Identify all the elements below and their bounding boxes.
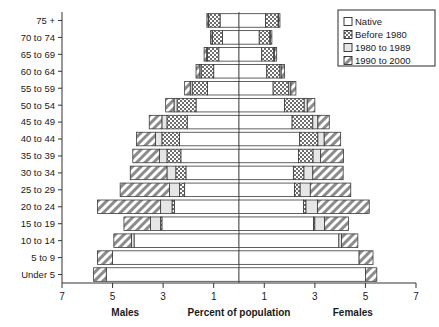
bar-segment-female-14-0 bbox=[239, 31, 259, 45]
y-tick-label-0: Under 5 bbox=[21, 269, 55, 280]
y-tick-label-15: 75 + bbox=[36, 15, 55, 26]
bar-segment-female-10-2 bbox=[304, 98, 307, 112]
y-tick-label-8: 40 to 44 bbox=[21, 133, 55, 144]
bar-segment-male-10-2 bbox=[174, 98, 177, 112]
bar-segment-female-1-3 bbox=[359, 251, 373, 265]
bar-segment-male-14-3 bbox=[210, 31, 212, 45]
y-tick-label-9: 45 to 49 bbox=[21, 116, 55, 127]
bar-segment-male-8-0 bbox=[180, 132, 239, 146]
bar-segment-female-6-2 bbox=[304, 166, 313, 180]
bar-segment-female-5-0 bbox=[239, 183, 295, 197]
y-tick-label-3: 15 to 19 bbox=[21, 218, 55, 229]
bar-segment-male-4-0 bbox=[175, 200, 239, 214]
bar-segment-female-10-0 bbox=[239, 98, 285, 112]
bar-segment-female-1-0 bbox=[239, 251, 359, 265]
bar-segment-male-0-3 bbox=[94, 268, 107, 282]
bars-group bbox=[94, 14, 377, 282]
bar-segment-male-13-1 bbox=[207, 48, 218, 62]
bar-segment-female-3-3 bbox=[324, 217, 348, 231]
bar-segment-male-13-3 bbox=[204, 48, 207, 62]
bar-segment-female-5-3 bbox=[310, 183, 350, 197]
x-tick-label-5: 3 bbox=[312, 291, 318, 302]
y-tick-label-1: 5 to 9 bbox=[31, 252, 55, 263]
bar-segment-female-3-0 bbox=[239, 217, 314, 231]
bar-segment-male-5-2 bbox=[169, 183, 179, 197]
x-tick-label-3: 1 bbox=[211, 291, 217, 302]
bar-segment-male-5-0 bbox=[185, 183, 239, 197]
bar-segment-female-9-0 bbox=[239, 115, 292, 129]
bar-segment-male-10-1 bbox=[177, 98, 196, 112]
bar-segment-female-8-1 bbox=[300, 132, 318, 146]
bar-segment-male-4-2 bbox=[161, 200, 172, 214]
bar-segment-male-10-3 bbox=[166, 98, 174, 112]
bar-segment-male-11-0 bbox=[207, 81, 239, 95]
y-tick-label-2: 10 to 14 bbox=[21, 235, 55, 246]
bar-segment-female-13-3 bbox=[274, 48, 276, 62]
bar-segment-male-9-3 bbox=[149, 115, 162, 129]
bar-segment-male-4-3 bbox=[97, 200, 160, 214]
bar-segment-female-6-3 bbox=[313, 166, 343, 180]
bar-segment-female-14-3 bbox=[270, 31, 272, 45]
y-tick-label-4: 20 to 24 bbox=[21, 201, 55, 212]
bar-segment-female-4-0 bbox=[239, 200, 303, 214]
bar-segment-female-7-0 bbox=[239, 149, 298, 163]
bar-segment-male-3-3 bbox=[124, 217, 151, 231]
x-tick-label-1: 5 bbox=[110, 291, 116, 302]
bar-segment-female-11-1 bbox=[273, 81, 289, 95]
bar-segment-male-14-1 bbox=[212, 31, 222, 45]
bar-segment-male-6-3 bbox=[130, 166, 167, 180]
bar-segment-female-9-2 bbox=[313, 115, 318, 129]
x-tick-label-0: 7 bbox=[59, 291, 65, 302]
bar-segment-female-8-2 bbox=[318, 132, 324, 146]
bar-segment-female-5-1 bbox=[295, 183, 301, 197]
bar-segment-female-2-0 bbox=[239, 234, 339, 248]
bar-segment-male-9-0 bbox=[187, 115, 239, 129]
bar-segment-female-8-3 bbox=[324, 132, 340, 146]
bar-segment-female-5-2 bbox=[300, 183, 310, 197]
bar-segment-male-15-1 bbox=[209, 14, 220, 28]
y-tick-label-7: 35 to 39 bbox=[21, 150, 55, 161]
bar-segment-male-7-3 bbox=[133, 149, 160, 163]
bar-segment-female-0-3 bbox=[365, 268, 376, 282]
bar-segment-female-8-0 bbox=[239, 132, 300, 146]
x-tick-label-2: 3 bbox=[160, 291, 166, 302]
bar-segment-male-11-3 bbox=[185, 81, 191, 95]
bar-segment-female-3-2 bbox=[315, 217, 325, 231]
bar-segment-female-10-1 bbox=[285, 98, 305, 112]
bar-segment-male-2-0 bbox=[134, 234, 239, 248]
bar-segment-male-12-3 bbox=[196, 65, 200, 79]
y-tick-label-5: 25 to 29 bbox=[21, 184, 55, 195]
bar-segment-male-3-2 bbox=[151, 217, 161, 231]
bar-segment-male-5-3 bbox=[120, 183, 169, 197]
x-tick-label-6: 5 bbox=[363, 291, 369, 302]
bar-segment-female-13-0 bbox=[239, 48, 262, 62]
bar-segment-female-13-1 bbox=[262, 48, 274, 62]
bar-segment-male-7-0 bbox=[181, 149, 239, 163]
bar-segment-female-7-3 bbox=[321, 149, 344, 163]
bar-segment-male-7-1 bbox=[167, 149, 181, 163]
bar-segment-male-9-1 bbox=[167, 115, 187, 129]
y-tick-label-11: 55 to 59 bbox=[21, 83, 55, 94]
bar-segment-female-15-0 bbox=[239, 14, 266, 28]
bar-segment-male-9-2 bbox=[162, 115, 167, 129]
bar-segment-male-3-0 bbox=[162, 217, 239, 231]
bar-segment-female-6-0 bbox=[239, 166, 293, 180]
bar-segment-female-6-1 bbox=[293, 166, 304, 180]
bar-segment-female-11-0 bbox=[239, 81, 273, 95]
bar-segment-male-12-0 bbox=[214, 65, 239, 79]
legend-swatch-2 bbox=[344, 44, 352, 52]
bar-segment-female-14-1 bbox=[259, 31, 270, 45]
males-axis-label: Males bbox=[111, 307, 139, 318]
x-axis-title: Percent of population bbox=[188, 307, 291, 318]
bar-segment-male-15-3 bbox=[207, 14, 208, 28]
y-tick-label-12: 60 to 64 bbox=[21, 66, 55, 77]
y-tick-label-6: 30 to 34 bbox=[21, 167, 55, 178]
bar-segment-female-10-3 bbox=[307, 98, 315, 112]
x-tick-label-4: 1 bbox=[262, 291, 268, 302]
legend-swatch-0 bbox=[344, 18, 352, 26]
legend-label-2: 1980 to 1989 bbox=[355, 42, 410, 53]
bar-segment-male-10-0 bbox=[196, 98, 239, 112]
y-tick-label-14: 70 to 74 bbox=[21, 32, 55, 43]
bar-segment-male-6-0 bbox=[186, 166, 239, 180]
bar-segment-male-1-3 bbox=[97, 251, 112, 265]
